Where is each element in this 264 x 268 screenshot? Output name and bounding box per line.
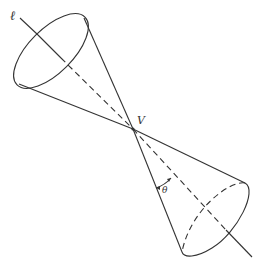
axis-line-upper-outer <box>20 18 38 35</box>
axis-line-upper-hidden <box>61 58 133 129</box>
axis-line-lower-outer <box>226 230 252 257</box>
lower-cone-base-ellipse-visible <box>182 183 249 256</box>
axis-label: ℓ <box>10 8 16 23</box>
double-cone-diagram: ℓ V θ <box>0 0 264 268</box>
lower-cone-generator-right <box>133 129 245 183</box>
upper-cone-base-ellipse <box>2 2 101 101</box>
axis-line-lower-hidden <box>133 129 226 230</box>
axis-line-upper-inside-ellipse <box>38 35 61 58</box>
lower-cone-base-ellipse-hidden <box>182 183 245 252</box>
angle-label: θ <box>162 185 168 195</box>
lower-cone-generator-left <box>133 129 182 252</box>
vertex-point <box>131 127 134 130</box>
vertex-label: V <box>137 114 146 127</box>
